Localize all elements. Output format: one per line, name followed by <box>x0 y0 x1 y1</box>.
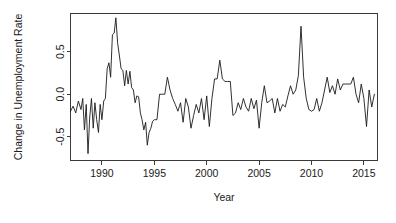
y-tick-label: 0.0 <box>54 87 66 102</box>
x-axis-title: Year <box>213 191 235 203</box>
x-tick-label: 2010 <box>300 167 324 179</box>
plot-frame <box>71 14 378 161</box>
x-tick-label: 2000 <box>195 167 219 179</box>
chart-figure: -0.50.00.5 199019952000200520102015 Year… <box>0 0 396 223</box>
x-tick-label: 2005 <box>247 167 271 179</box>
y-axis-tick-labels: -0.50.00.5 <box>54 44 66 145</box>
x-axis-ticks <box>102 161 364 165</box>
series-line-change-in-unemployment-rate <box>71 18 375 154</box>
y-axis-ticks <box>67 52 71 137</box>
unemployment-change-line-chart: -0.50.00.5 199019952000200520102015 Year… <box>0 0 396 223</box>
x-tick-label: 1990 <box>90 167 114 179</box>
y-tick-label: -0.5 <box>54 128 66 146</box>
data-series-group <box>71 18 375 154</box>
x-tick-label: 2015 <box>352 167 376 179</box>
x-axis-tick-labels: 199019952000200520102015 <box>90 167 375 179</box>
y-tick-label: 0.5 <box>54 44 66 59</box>
x-tick-label: 1995 <box>143 167 167 179</box>
plot-border <box>71 14 378 161</box>
y-axis-title: Change in Unemployment Rate <box>12 14 24 161</box>
